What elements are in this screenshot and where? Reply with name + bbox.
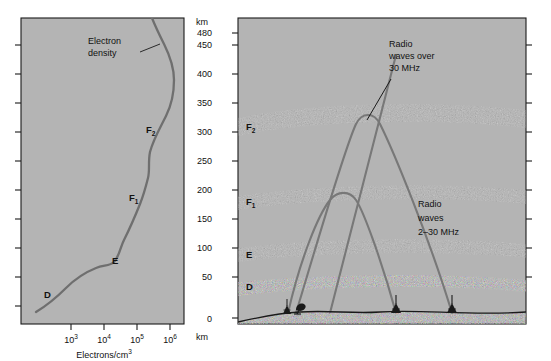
left-panel-plot-area <box>21 18 184 324</box>
left-panel: Electron density F2 F1 E D 103 104 105 1… <box>15 18 184 360</box>
mf-label-line1: Radio <box>418 199 442 209</box>
electron-density-label-line1: Electron <box>88 36 121 46</box>
altitude-tick-400: 400 <box>197 69 212 79</box>
ionosphere-figure: Electron density F2 F1 E D 103 104 105 1… <box>0 0 551 361</box>
hf-label-line3: 30 MHz <box>389 63 421 73</box>
x-axis-label: Electrons/cm3 <box>76 348 132 360</box>
hf-label-line2: waves over <box>388 51 435 61</box>
altitude-tick-50: 50 <box>202 272 212 282</box>
altitude-tick-0: 0 <box>207 314 212 324</box>
mf-label-line3: 2–30 MHz <box>418 227 460 237</box>
altitude-axis-unit-top: km <box>196 17 208 27</box>
right-layer-label-d: D <box>246 281 253 292</box>
altitude-tick-150: 150 <box>197 214 212 224</box>
electron-density-label-line2: density <box>88 48 117 58</box>
altitude-tick-100: 100 <box>197 243 212 253</box>
mf-label-line2: waves <box>417 213 444 223</box>
right-layer-label-e: E <box>246 249 252 260</box>
altitude-tick-450: 450 <box>197 40 212 50</box>
altitude-tick-250: 250 <box>197 156 212 166</box>
figure-root: Electron density F2 F1 E D 103 104 105 1… <box>0 0 551 361</box>
altitude-tick-480: 480 <box>197 28 212 38</box>
altitude-tick-350: 350 <box>197 98 212 108</box>
altitude-tick-300: 300 <box>197 127 212 137</box>
left-layer-label-d: D <box>44 289 51 300</box>
left-layer-label-e: E <box>112 255 118 266</box>
altitude-axis-unit-bottom: km <box>196 332 208 342</box>
altitude-tick-200: 200 <box>197 185 212 195</box>
right-panel: F2 F1 E D Radio waves over 30 MHz Radio … <box>232 18 532 330</box>
hf-label-line1: Radio <box>389 39 413 49</box>
